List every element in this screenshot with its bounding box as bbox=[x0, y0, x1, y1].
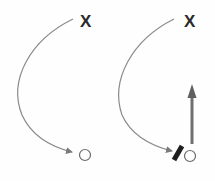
start-x-marker: X bbox=[80, 12, 92, 31]
end-circle-marker bbox=[185, 151, 196, 162]
start-x-marker: X bbox=[184, 12, 196, 31]
play-diagram: X X bbox=[0, 0, 215, 181]
right-panel: X bbox=[119, 12, 197, 162]
straight-arrow-head-icon bbox=[188, 84, 197, 98]
curved-arrow-path bbox=[119, 19, 174, 151]
left-panel: X bbox=[18, 12, 92, 161]
curved-arrow-path bbox=[18, 19, 73, 152]
block-bar bbox=[172, 145, 184, 161]
end-circle-marker bbox=[80, 150, 91, 161]
